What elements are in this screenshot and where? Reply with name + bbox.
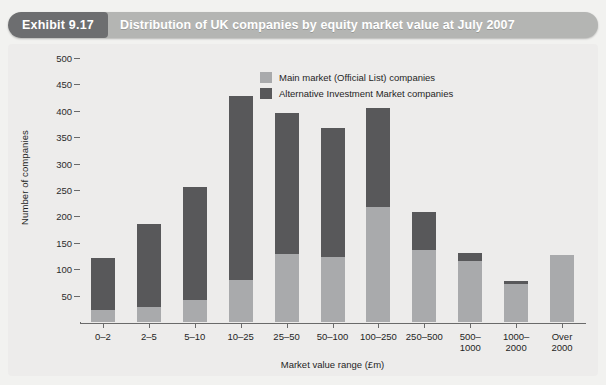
- bar-Over2000: [550, 255, 574, 322]
- legend-swatch-main-market: [260, 72, 272, 83]
- bar-segment-main-market: [321, 257, 345, 322]
- y-axis-tick-label: 150: [56, 237, 72, 248]
- y-axis-tick-label: 200: [56, 211, 72, 222]
- bar-segment-aim: [275, 113, 299, 255]
- x-axis-tick: [470, 323, 471, 328]
- bar-0-2: [91, 258, 115, 322]
- chart-area: 50100150200250300350400450500 Number of …: [8, 44, 598, 376]
- y-axis-tick-label: 400: [56, 105, 72, 116]
- x-axis-tick: [516, 323, 517, 328]
- exhibit-title: Distribution of UK companies by equity m…: [120, 12, 515, 38]
- x-axis-tick: [333, 323, 334, 328]
- bar-segment-main-market: [275, 254, 299, 322]
- x-axis-tick: [424, 323, 425, 328]
- bar-segment-aim: [137, 224, 161, 307]
- x-axis-tick: [103, 323, 104, 328]
- bar-segment-aim: [412, 212, 436, 250]
- x-axis-tick: [195, 323, 196, 328]
- x-axis-title: Market value range (£m): [80, 359, 585, 370]
- bar-2-5: [137, 224, 161, 322]
- y-axis-tick-label: 100: [56, 264, 72, 275]
- bar-segment-aim: [229, 96, 253, 280]
- x-axis-tick-label: Over 2000: [534, 331, 590, 353]
- x-axis-tick: [562, 323, 563, 328]
- bar-10-25: [229, 96, 253, 322]
- y-axis-tick-label: 500: [56, 53, 72, 64]
- bar-segment-aim: [91, 258, 115, 310]
- bar-segment-aim: [321, 128, 345, 257]
- bar-50-100: [321, 128, 345, 322]
- exhibit-number-tag: Exhibit 9.17: [8, 12, 108, 38]
- legend-swatch-aim: [260, 88, 272, 99]
- bar-250-500: [412, 212, 436, 322]
- x-axis-tick: [287, 323, 288, 328]
- y-axis-tick-label: 300: [56, 158, 72, 169]
- bar-segment-main-market: [504, 284, 528, 322]
- bar-segment-aim: [458, 253, 482, 261]
- x-axis-tick: [378, 323, 379, 328]
- bar-segment-main-market: [412, 250, 436, 322]
- exhibit-header: Exhibit 9.17 Distribution of UK companie…: [8, 12, 598, 38]
- bar-segment-main-market: [366, 207, 390, 322]
- bar-segment-main-market: [91, 310, 115, 322]
- bar-segment-main-market: [183, 300, 207, 322]
- x-axis-tick: [241, 323, 242, 328]
- bar-100-250: [366, 108, 390, 322]
- bar-segment-aim: [183, 187, 207, 299]
- y-axis-tick-label: 50: [61, 290, 72, 301]
- legend-label: Alternative Investment Market companies: [279, 88, 453, 99]
- x-axis-tick: [149, 323, 150, 328]
- bar-segment-main-market: [550, 255, 574, 322]
- y-axis-tick-label: 450: [56, 79, 72, 90]
- bar-5-10: [183, 187, 207, 322]
- y-axis-tick-label: 350: [56, 132, 72, 143]
- bar-segment-aim: [366, 108, 390, 207]
- chart-legend: Main market (Official List) companiesAlt…: [260, 72, 453, 104]
- exhibit-page: Exhibit 9.17 Distribution of UK companie…: [0, 0, 606, 385]
- bar-segment-main-market: [229, 280, 253, 322]
- bar-1000-2000: [504, 281, 528, 322]
- bar-segment-main-market: [137, 307, 161, 322]
- legend-item: Alternative Investment Market companies: [260, 88, 453, 99]
- y-axis-title: Number of companies: [19, 78, 30, 278]
- legend-label: Main market (Official List) companies: [279, 72, 435, 83]
- bar-500-1000: [458, 253, 482, 322]
- bar-25-50: [275, 113, 299, 322]
- bar-segment-main-market: [458, 261, 482, 322]
- legend-item: Main market (Official List) companies: [260, 72, 453, 83]
- y-axis-tick-label: 250: [56, 185, 72, 196]
